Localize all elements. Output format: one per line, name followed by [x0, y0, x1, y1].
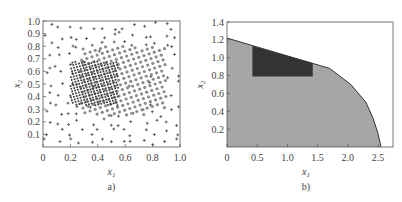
x-tick-label: 1.0 [174, 152, 187, 163]
x-tick-label: 0.8 [146, 152, 159, 163]
y-axis-label: x2 [194, 80, 207, 89]
svg-text:x1: x1 [107, 166, 116, 179]
x-axis-label: x1 [107, 166, 116, 179]
x-tick-label: 0.6 [119, 152, 132, 163]
y-tick-label: 0.2 [28, 116, 41, 127]
y-tick-label: 0.7 [28, 53, 41, 64]
x-tick-label: 0.5 [251, 152, 264, 163]
y-tick-label: 1.0 [212, 52, 225, 63]
y-tick-label: 1.0 [28, 16, 41, 27]
y-tick-label: 0.1 [28, 129, 41, 140]
svg-text:x2: x2 [194, 80, 207, 89]
y-tick-label: 0.4 [212, 106, 225, 117]
y-tick-label: 0.4 [28, 91, 41, 102]
panel-a-scatter: 00.20.40.60.81.00.10.20.30.40.50.60.70.8… [11, 16, 186, 194]
y-tick-label: 0.6 [212, 88, 225, 99]
x-tick-label: 2.0 [342, 152, 355, 163]
feasible-samples [79, 45, 168, 117]
y-tick-label: 0.5 [28, 79, 41, 90]
svg-text:x2: x2 [11, 80, 24, 89]
y-tick-label: 0.6 [28, 66, 41, 77]
x-tick-label: 2.5 [372, 152, 385, 163]
svg-text:x1: x1 [301, 166, 310, 179]
y-tick-label: 0.9 [28, 28, 41, 39]
y-tick-label: 0.8 [212, 70, 225, 81]
x-tick-label: 0 [41, 152, 46, 163]
x-tick-label: 0.4 [92, 152, 105, 163]
panel-b-region: 00.51.01.52.02.50.20.40.60.81.01.21.4x1x… [194, 17, 393, 194]
inner-region [252, 46, 312, 76]
y-tick-label: 0.8 [28, 41, 41, 52]
x-tick-label: 1.0 [281, 152, 294, 163]
panel-label: b) [302, 181, 310, 193]
figure: 00.20.40.60.81.00.10.20.30.40.50.60.70.8… [0, 0, 402, 202]
x-tick-label: 0.2 [64, 152, 77, 163]
x-tick-label: 1.5 [311, 152, 324, 163]
y-tick-label: 1.4 [212, 17, 225, 28]
y-tick-label: 0.3 [28, 104, 41, 115]
y-tick-label: 0.2 [212, 124, 225, 135]
panel-label: a) [108, 181, 116, 193]
x-tick-label: 0 [225, 152, 230, 163]
y-tick-label: 1.2 [212, 34, 225, 45]
y-axis-label: x2 [11, 80, 24, 89]
x-axis-label: x1 [301, 166, 310, 179]
